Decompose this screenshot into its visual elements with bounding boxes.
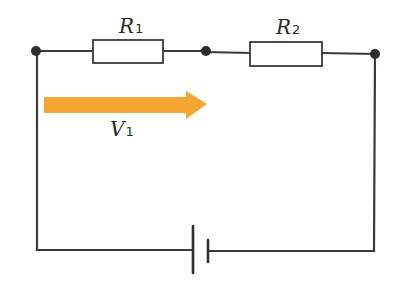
arrow-shaft	[44, 97, 189, 113]
voltage-arrow-v1	[44, 91, 207, 119]
label-r1-symbol: R	[118, 14, 134, 38]
wire-middle-to-r2	[206, 52, 250, 53]
wire-r2-to-right	[322, 53, 375, 54]
resistor-r2	[250, 42, 322, 66]
middle-node	[201, 46, 211, 56]
label-r2: R2	[275, 15, 300, 39]
label-r2-symbol: R	[275, 15, 291, 39]
label-r1-subscript: 1	[135, 21, 143, 36]
right-node	[370, 49, 380, 59]
label-v1-subscript: 1	[125, 124, 133, 139]
left-node	[31, 46, 41, 56]
arrow-head	[186, 91, 207, 119]
wire-right-vertical	[374, 54, 375, 251]
label-v1-symbol: V	[110, 117, 127, 141]
label-v1: V1	[110, 117, 134, 141]
label-r2-subscript: 2	[292, 22, 300, 37]
label-r1: R1	[118, 14, 143, 38]
resistor-r1	[93, 40, 163, 63]
series-circuit-diagram: R1 R2 V1	[0, 0, 404, 291]
